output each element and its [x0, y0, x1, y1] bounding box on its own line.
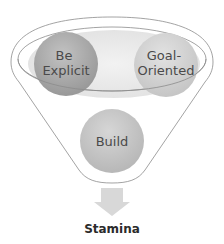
build-label: Build — [96, 134, 129, 149]
down-arrow-icon — [94, 188, 130, 216]
funnel-diagram: Be Explicit Goal- Oriented Build Stamina — [0, 0, 224, 244]
goal-oriented-line1: Goal- — [147, 48, 182, 63]
input-be-explicit: Be Explicit — [34, 32, 98, 96]
be-explicit-line2: Explicit — [42, 63, 89, 78]
input-goal-oriented: Goal- Oriented — [134, 33, 198, 97]
be-explicit-line1: Be — [55, 48, 72, 63]
process-build: Build — [80, 109, 144, 173]
goal-oriented-line2: Oriented — [138, 63, 195, 78]
output-label: Stamina — [84, 222, 140, 236]
